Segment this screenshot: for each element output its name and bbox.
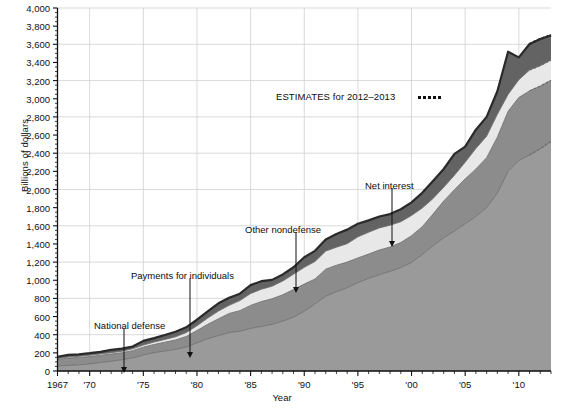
y-axis-tick-labels: 02004006008001,0001,2001,4001,6001,8002,… [0, 0, 50, 408]
y-tick-label: 200 [6, 347, 50, 358]
y-tick-label: 0 [6, 366, 50, 377]
annotation-label-payments-for-individuals: Payments for individuals [131, 270, 234, 281]
x-tick-label: '10 [513, 379, 525, 390]
federal-outlays-stacked-area-chart: Billions of dollars 02004006008001,0001,… [0, 0, 564, 408]
y-tick-label: 1,000 [6, 275, 50, 286]
estimates-note-dotted-marker [418, 96, 441, 99]
estimate-dot [433, 96, 436, 99]
y-tick-label: 600 [6, 311, 50, 322]
x-tick-label: '90 [298, 379, 310, 390]
y-tick-label: 1,800 [6, 202, 50, 213]
y-tick-label: 3,200 [6, 75, 50, 86]
estimate-dot [428, 96, 431, 99]
y-tick-label: 1,200 [6, 257, 50, 268]
estimate-dot [418, 96, 421, 99]
x-tick-label: '95 [352, 379, 364, 390]
estimates-note-label: ESTIMATES for 2012–2013 [276, 91, 395, 102]
y-tick-label: 2,800 [6, 111, 50, 122]
x-tick-label: 1967 [47, 379, 68, 390]
y-tick-label: 1,400 [6, 238, 50, 249]
x-tick-label: '75 [137, 379, 149, 390]
y-tick-label: 400 [6, 329, 50, 340]
y-tick-label: 3,400 [6, 57, 50, 68]
y-tick-label: 3,000 [6, 93, 50, 104]
x-tick-label: '85 [244, 379, 256, 390]
y-tick-label: 800 [6, 293, 50, 304]
annotation-label-net-interest: Net interest [365, 180, 414, 191]
y-tick-label: 2,000 [6, 184, 50, 195]
x-tick-label: '70 [83, 379, 95, 390]
y-tick-label: 3,600 [6, 39, 50, 50]
estimate-dot [423, 96, 426, 99]
plot-area [0, 0, 564, 408]
y-tick-label: 2,400 [6, 148, 50, 159]
x-tick-label: '80 [191, 379, 203, 390]
annotation-label-other-nondefense: Other nondefense [245, 224, 321, 235]
y-tick-label: 1,600 [6, 220, 50, 231]
y-tick-label: 3,800 [6, 21, 50, 32]
y-tick-label: 2,200 [6, 166, 50, 177]
x-axis-title: Year [0, 392, 564, 403]
y-tick-label: 4,000 [6, 3, 50, 14]
y-tick-label: 2,600 [6, 130, 50, 141]
annotation-label-national-defense: National defense [94, 320, 165, 331]
x-tick-label: '00 [405, 379, 417, 390]
x-tick-label: '05 [459, 379, 471, 390]
estimate-dot [438, 96, 441, 99]
